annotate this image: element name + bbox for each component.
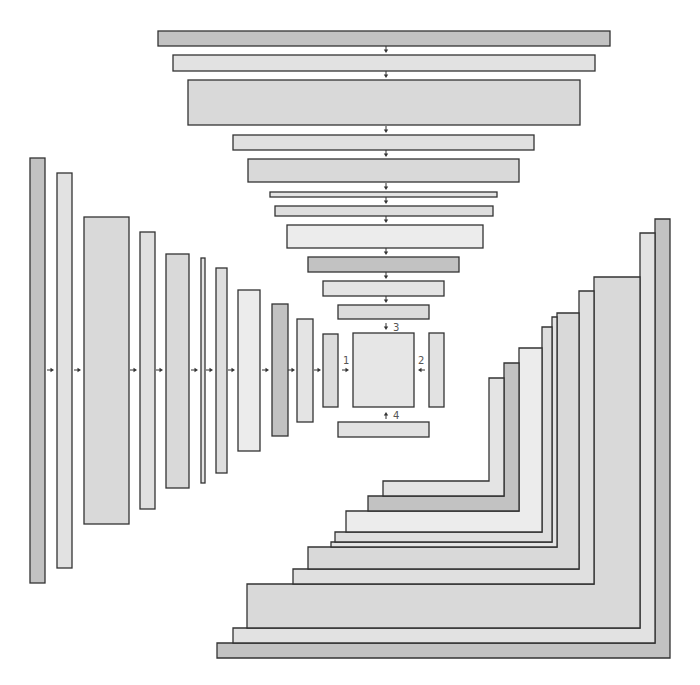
arrow-right-icon xyxy=(47,368,54,372)
left-bar-5 xyxy=(166,254,189,488)
nested-bars-diagram: 1 2 3 4 xyxy=(0,0,700,685)
arrow-down-icon xyxy=(384,71,388,78)
label-1: 1 xyxy=(343,355,349,366)
left-bar-1 xyxy=(30,158,45,583)
arrow-down-icon xyxy=(384,197,388,204)
arrow-right-icon xyxy=(262,368,269,372)
left-bar-6 xyxy=(201,258,205,483)
center-group xyxy=(338,333,444,437)
top-bar-5 xyxy=(248,159,519,182)
arrow-right-icon xyxy=(156,368,163,372)
left-bar-3 xyxy=(84,217,129,524)
arrow-down-icon xyxy=(384,296,388,303)
label-4: 4 xyxy=(393,410,399,421)
arrow-left-icon xyxy=(418,368,425,372)
top-bar-10 xyxy=(323,281,444,296)
top-bar-11 xyxy=(338,305,429,319)
left-bar-4 xyxy=(140,232,155,509)
right-small-bar xyxy=(429,333,444,407)
arrow-down-icon xyxy=(384,248,388,255)
arrow-right-icon xyxy=(206,368,213,372)
arrow-up-icon xyxy=(384,412,388,419)
arrow-down-icon xyxy=(384,272,388,279)
label-3: 3 xyxy=(393,322,399,333)
arrow-down-icon xyxy=(384,46,388,53)
left-bar-2 xyxy=(57,173,72,568)
arrow-right-icon xyxy=(130,368,137,372)
label-2: 2 xyxy=(418,355,424,366)
top-bar-8 xyxy=(287,225,483,248)
top-bar-9 xyxy=(308,257,459,272)
top-bar-4 xyxy=(233,135,534,150)
top-bar-1 xyxy=(158,31,610,46)
arrow-right-icon xyxy=(314,368,321,372)
left-bar-11 xyxy=(323,334,338,407)
arrow-right-icon xyxy=(288,368,295,372)
left-bar-7 xyxy=(216,268,227,473)
left-bar-8 xyxy=(238,290,260,451)
top-bar-7 xyxy=(275,206,493,216)
bottom-small-bar xyxy=(338,422,429,437)
top-bar-6 xyxy=(270,192,497,197)
center-square xyxy=(353,333,414,407)
left-bar-9 xyxy=(272,304,288,436)
left-bar-10 xyxy=(297,319,313,422)
arrow-right-icon xyxy=(191,368,198,372)
arrow-right-icon xyxy=(228,368,235,372)
arrow-down-icon xyxy=(384,150,388,157)
arrow-down-icon xyxy=(384,183,388,190)
arrow-right-icon xyxy=(74,368,81,372)
arrow-down-icon xyxy=(384,126,388,133)
top-bar-2 xyxy=(173,55,595,71)
arrow-right-icon xyxy=(342,368,349,372)
arrow-down-icon xyxy=(384,216,388,223)
top-bar-3 xyxy=(188,80,580,125)
arrow-down-icon xyxy=(384,323,388,330)
